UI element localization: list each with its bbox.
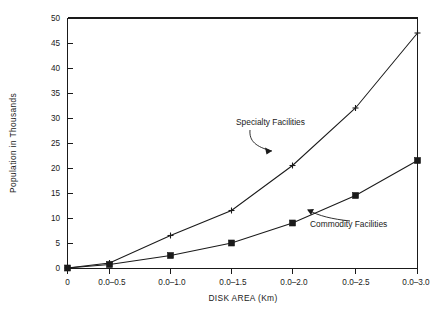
y-tick-label: 25	[51, 139, 61, 148]
y-tick-label: 35	[51, 89, 61, 98]
x-tick-label: 0.0–2.5	[342, 278, 370, 287]
y-tick-label: 30	[51, 114, 61, 123]
chart-canvas: 0 5 10 15 20 25 30 35 40 45 50 0 0.0–0.5	[0, 0, 443, 309]
x-axis-title: DISK AREA (Km)	[208, 293, 277, 303]
data-point-marker	[415, 158, 421, 164]
y-tick-label: 40	[51, 64, 61, 73]
data-point-marker	[353, 193, 359, 199]
y-tick-label: 15	[51, 189, 61, 198]
x-tick-label: 0	[65, 278, 70, 287]
y-axis-title: Population in Thousands	[8, 93, 18, 193]
data-point-marker	[168, 253, 174, 259]
line-chart: 0 5 10 15 20 25 30 35 40 45 50 0 0.0–0.5	[0, 0, 443, 309]
x-tick-label: 0.0–1.5	[219, 278, 247, 287]
y-tick-label: 5	[55, 239, 60, 248]
y-tick-label: 20	[51, 164, 61, 173]
x-tick-label: 0.0–2.0	[280, 278, 308, 287]
x-tick-label: 0.0–1.0	[158, 278, 186, 287]
data-point-marker	[229, 240, 235, 246]
data-point-marker	[290, 220, 296, 226]
chart-background	[0, 0, 443, 309]
annotation-label: Specialty Facilities	[236, 117, 305, 127]
y-tick-label: 50	[51, 14, 61, 23]
y-tick-label: 0	[55, 264, 60, 273]
x-tick-label: 0.0–0.5	[98, 278, 126, 287]
y-tick-label: 45	[51, 39, 61, 48]
y-tick-label: 10	[51, 214, 61, 223]
x-tick-label: 0.0–3.0	[402, 278, 430, 287]
